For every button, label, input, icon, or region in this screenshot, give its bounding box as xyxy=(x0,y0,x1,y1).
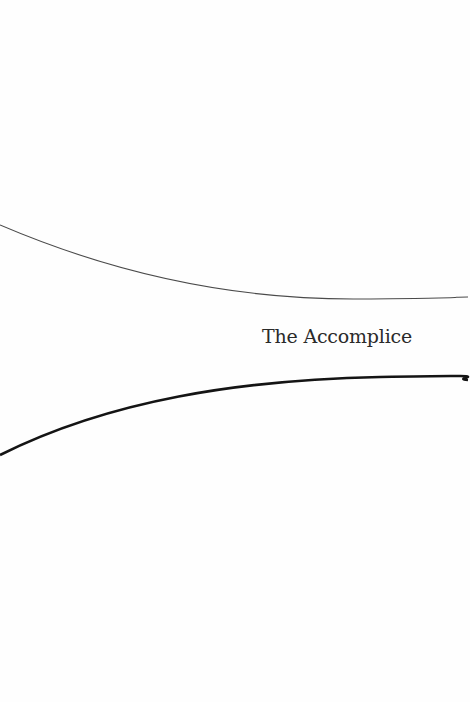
book-title: The Accomplice xyxy=(262,325,412,347)
lower-curve xyxy=(0,376,468,455)
book-title-page: The Accomplice xyxy=(0,0,470,702)
decorative-curves xyxy=(0,0,470,702)
upper-curve xyxy=(0,225,468,299)
